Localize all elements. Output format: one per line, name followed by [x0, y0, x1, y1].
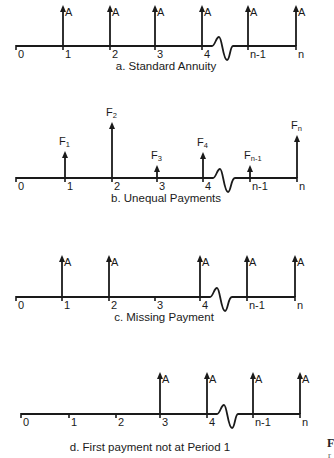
period-label: n-1 [250, 48, 266, 60]
period-label: 1 [64, 299, 70, 311]
cash-flow-label: A [65, 6, 73, 18]
cash-flow-label: A [249, 256, 257, 268]
arrow-head-icon [62, 151, 68, 158]
period-label: 2 [114, 180, 120, 192]
cash-flow-label: A [157, 6, 165, 18]
cash-flow-diagram-figure: 01234n-1nAAAAAA01234n-1nF1F2F3F4Fn-1Fn01… [0, 0, 334, 458]
cash-flow-label: Fn-1 [244, 149, 262, 163]
period-label: 4 [204, 48, 210, 60]
cash-flow-label: A [204, 6, 212, 18]
period-label: 0 [18, 299, 24, 311]
cash-flow-label: A [111, 256, 119, 268]
period-label: 4 [202, 299, 208, 311]
cash-flow-label: A [209, 373, 217, 385]
period-label: 3 [157, 299, 163, 311]
cash-flow-label: A [162, 373, 170, 385]
period-label: 2 [111, 299, 117, 311]
cash-flow-label: A [202, 256, 210, 268]
period-label: 3 [162, 416, 168, 428]
period-label: 1 [71, 416, 77, 428]
period-label: 0 [18, 180, 24, 192]
period-label: n-1 [255, 416, 271, 428]
period-label: 1 [67, 180, 73, 192]
caption-panel-a: a. Standard Annuity [116, 60, 216, 72]
period-label: 1 [65, 48, 71, 60]
cash-flow-label: F4 [197, 136, 208, 150]
cash-flow-label: F3 [151, 149, 162, 163]
cash-flow-label: F2 [106, 106, 117, 120]
caption-panel-b: b. Unequal Payments [111, 192, 221, 204]
period-label: n [299, 180, 305, 192]
cash-flow-label: A [298, 6, 306, 18]
period-label: n [298, 48, 304, 60]
arrow-head-icon [294, 135, 300, 142]
arrow-head-icon [109, 122, 115, 129]
arrow-head-icon [154, 165, 160, 172]
cash-flow-label: A [297, 256, 305, 268]
cropped-figure-label: F [327, 436, 334, 451]
panel-c: 01234n-1nAAAAA [16, 255, 305, 311]
arrow-head-icon [247, 165, 253, 172]
period-label: 2 [112, 48, 118, 60]
period-label: 3 [157, 48, 163, 60]
period-label: 4 [205, 180, 211, 192]
cash-flow-label: F1 [59, 135, 70, 149]
panel-b: 01234n-1nF1F2F3F4Fn-1Fn [16, 106, 305, 192]
period-label: n [302, 416, 308, 428]
panel-a: 01234n-1nAAAAAA [16, 5, 306, 60]
period-label: 4 [209, 416, 215, 428]
cash-flow-label: A [302, 373, 310, 385]
period-label: 0 [23, 416, 29, 428]
period-label: 3 [159, 180, 165, 192]
period-label: n-1 [249, 299, 265, 311]
panel-d: 01234n-1nAAAA [21, 372, 310, 428]
arrow-head-icon [200, 152, 206, 159]
cash-flow-label: A [64, 256, 72, 268]
cash-flow-label: A [112, 6, 120, 18]
period-label: n-1 [252, 180, 268, 192]
cash-flow-label: Fn [291, 119, 302, 133]
period-label: n [297, 299, 303, 311]
cropped-figure-text: r [328, 450, 331, 458]
period-label: 2 [118, 416, 124, 428]
caption-panel-c: c. Missing Payment [114, 311, 214, 323]
cash-flow-label: A [255, 373, 263, 385]
caption-panel-d: d. First payment not at Period 1 [70, 441, 230, 453]
period-label: 0 [18, 48, 24, 60]
cash-flow-label: A [250, 6, 258, 18]
